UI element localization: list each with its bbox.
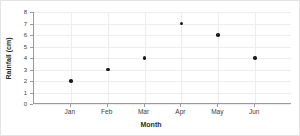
gridline-horizontal [34,35,291,36]
x-axis-tick-mark [180,104,181,107]
y-axis-tick-label: 8 [5,9,27,15]
x-axis-tick-mark [144,104,145,107]
gridline-vertical [108,12,109,103]
x-axis-tick-label: Mar [124,109,164,116]
data-point [253,56,257,60]
gridline-vertical [218,12,219,103]
gridline-horizontal [34,24,291,25]
x-axis-tick-mark [217,104,218,107]
gridline-vertical [71,12,72,103]
y-axis-tick-label: 3 [5,67,27,73]
plot-area [33,12,291,104]
y-axis-tick-label: 0 [5,101,27,107]
gridline-vertical [181,12,182,103]
y-axis-tick-label: 7 [5,21,27,27]
x-axis-title: Month [1,121,300,128]
y-axis-tick-label: 6 [5,32,27,38]
y-axis-tick-mark [30,104,33,105]
gridline-horizontal [34,47,291,48]
y-axis-tick-label: 4 [5,55,27,61]
data-point [69,79,73,83]
y-axis-tick-label: 1 [5,90,27,96]
y-axis-tick-label: 5 [5,44,27,50]
data-point [143,56,147,60]
x-axis-tick-mark [107,104,108,107]
data-point [106,68,110,72]
gridline-horizontal [34,104,291,105]
rainfall-scatter-chart: Rainfall (cm) 012345678 JanFebMarAprMayJ… [0,0,300,136]
y-axis-tick-label: 2 [5,78,27,84]
x-axis-tick-mark [254,104,255,107]
x-axis-tick-label: Jan [50,109,90,116]
gridline-horizontal [34,70,291,71]
x-axis-tick-label: May [197,109,237,116]
gridline-horizontal [34,12,291,13]
gridline-horizontal [34,93,291,94]
x-axis-tick-label: Jun [234,109,274,116]
x-axis-tick-label: Feb [87,109,127,116]
data-point [216,33,220,37]
x-axis-tick-mark [70,104,71,107]
data-point [180,22,184,26]
x-axis-tick-label: Apr [160,109,200,116]
